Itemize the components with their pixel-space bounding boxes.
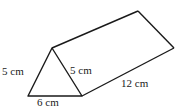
right-side-label: 5 cm — [70, 65, 92, 76]
triangular-prism-diagram: 5 cm 5 cm 6 cm 12 cm — [0, 0, 183, 112]
top-edge — [52, 11, 138, 48]
length-label: 12 cm — [121, 78, 148, 89]
back-slant-edge — [138, 11, 174, 48]
left-side-label: 5 cm — [2, 66, 24, 77]
base-label: 6 cm — [37, 97, 59, 108]
prism-drawing — [0, 0, 183, 112]
